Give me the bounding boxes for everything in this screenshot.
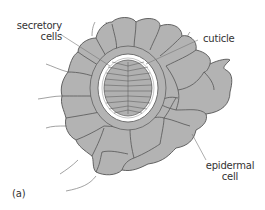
label-secretory-cells-line1: secretory bbox=[6, 20, 62, 31]
label-epidermal-cell-line1: epidermal bbox=[200, 160, 260, 171]
label-cuticle: cuticle bbox=[203, 33, 235, 44]
label-secretory-cells-line2: cells bbox=[6, 31, 62, 42]
label-epidermal-cell-line2: cell bbox=[200, 171, 260, 182]
leader-epidermal-cell bbox=[192, 134, 206, 160]
label-secretory-cells: secretory cells bbox=[6, 20, 62, 42]
panel-label: (a) bbox=[12, 188, 25, 199]
label-epidermal-cell: epidermal cell bbox=[200, 160, 260, 182]
